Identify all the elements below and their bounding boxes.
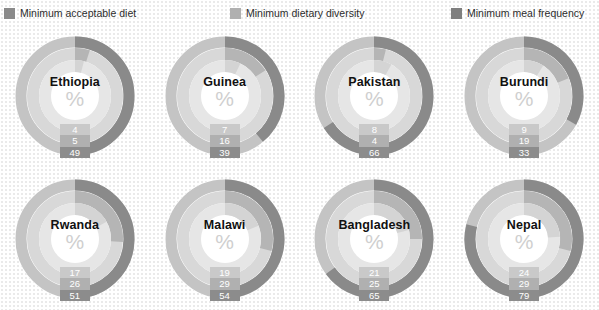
donut-rings (12, 33, 138, 159)
donut-chart-malawi: Malawi%192954 (150, 167, 300, 310)
donut-chart-bangladesh: Bangladesh%212565 (300, 167, 450, 310)
legend-label-meal-frequency: Minimum meal frequency (467, 7, 584, 19)
legend-swatch-meal-frequency (451, 8, 462, 19)
legend-swatch-acceptable-diet (4, 8, 15, 19)
donut-chart-guinea: Guinea%71639 (150, 24, 300, 167)
legend-label-acceptable-diet: Minimum acceptable diet (20, 7, 136, 19)
legend-item-dietary-diversity: Minimum dietary diversity (230, 7, 364, 19)
legend-item-acceptable-diet: Minimum acceptable diet (4, 7, 136, 19)
donut-rings (461, 33, 587, 159)
donut-chart-burundi: Burundi%91933 (449, 24, 599, 167)
donut-chart-grid: Ethiopia%4549Guinea%71639Pakistan%8466Bu… (0, 24, 599, 310)
donut-chart-ethiopia: Ethiopia%4549 (0, 24, 150, 167)
donut-rings (311, 33, 437, 159)
donut-rings (12, 176, 138, 302)
donut-rings (461, 176, 587, 302)
donut-chart-nepal: Nepal%242979 (449, 167, 599, 310)
donut-rings (162, 176, 288, 302)
donut-rings (311, 176, 437, 302)
donut-rings (162, 33, 288, 159)
legend-item-meal-frequency: Minimum meal frequency (451, 7, 584, 19)
chart-legend: Minimum acceptable diet Minimum dietary … (0, 0, 599, 26)
legend-label-dietary-diversity: Minimum dietary diversity (246, 7, 364, 19)
donut-chart-rwanda: Rwanda%172651 (0, 167, 150, 310)
donut-chart-pakistan: Pakistan%8466 (300, 24, 450, 167)
legend-swatch-dietary-diversity (230, 8, 241, 19)
